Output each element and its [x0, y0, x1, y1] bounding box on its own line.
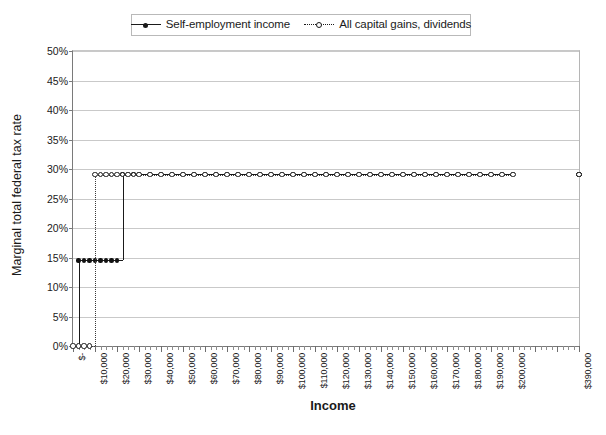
- x-tick-mark: [134, 346, 135, 350]
- data-point-marker: [312, 172, 317, 177]
- data-point-marker: [169, 172, 174, 177]
- x-tick-mark: [238, 346, 239, 350]
- x-tick-mark: [458, 346, 459, 350]
- data-point-marker: [70, 343, 75, 348]
- x-tick-mark: [183, 346, 184, 352]
- x-tick-mark: [172, 346, 173, 350]
- data-point-marker: [367, 172, 372, 177]
- x-tick-mark: [409, 346, 410, 350]
- x-tick-mark: [139, 346, 140, 352]
- x-tick-label: $170,000: [451, 353, 461, 389]
- x-tick-label: $160,000: [429, 353, 439, 389]
- data-point-marker: [455, 172, 460, 177]
- legend-label-capital-gains: All capital gains, dividends: [339, 19, 471, 31]
- x-tick-mark: [293, 346, 294, 352]
- x-tick-mark: [381, 346, 382, 352]
- series-all-capital-gains-dividends: [73, 51, 579, 346]
- x-tick-mark: [194, 346, 195, 350]
- data-point-marker: [279, 172, 284, 177]
- data-point-marker: [202, 172, 207, 177]
- x-tick-mark: [161, 346, 162, 352]
- x-tick-label: $70,000: [231, 353, 241, 384]
- data-point-marker: [136, 172, 141, 177]
- data-point-marker: [334, 172, 339, 177]
- data-point-marker: [510, 172, 515, 177]
- x-tick-mark: [414, 346, 415, 350]
- x-tick-label: $150,000: [407, 353, 417, 389]
- x-tick-mark: [442, 346, 443, 350]
- y-tick-label: 45%: [28, 75, 68, 87]
- data-point-marker: [109, 172, 114, 177]
- data-point-marker: [301, 172, 306, 177]
- x-tick-mark: [541, 346, 542, 350]
- x-tick-mark: [205, 346, 206, 352]
- x-tick-mark: [464, 346, 465, 350]
- x-tick-mark: [469, 346, 470, 352]
- x-tick-mark: [403, 346, 404, 352]
- data-point-marker: [411, 172, 416, 177]
- data-point-marker: [180, 172, 185, 177]
- x-tick-mark: [436, 346, 437, 350]
- x-tick-mark: [552, 346, 553, 350]
- x-tick-mark: [502, 346, 503, 350]
- data-point-marker: [488, 172, 493, 177]
- x-tick-label: $130,000: [363, 353, 373, 389]
- x-axis-title: Income: [0, 398, 606, 413]
- data-point-marker: [98, 172, 103, 177]
- x-tick-label: $100,000: [297, 353, 307, 389]
- x-tick-label: $80,000: [253, 353, 263, 384]
- x-tick-label: $20,000: [121, 353, 131, 384]
- x-tick-mark: [128, 346, 129, 350]
- x-tick-mark: [249, 346, 250, 352]
- x-tick-mark: [233, 346, 234, 350]
- y-tick-label: 25%: [28, 193, 68, 205]
- y-axis-title: Marginal total federal tax rate: [4, 0, 30, 390]
- legend-entry-self-employment: Self-employment income: [131, 19, 290, 31]
- x-tick-label: $140,000: [385, 353, 395, 389]
- x-tick-mark: [431, 346, 432, 350]
- x-tick-label: $40,000: [165, 353, 175, 384]
- data-point-marker: [87, 343, 92, 348]
- x-tick-mark: [420, 346, 421, 350]
- y-tick-label: 50%: [28, 45, 68, 57]
- x-tick-label: $10,000: [99, 353, 109, 384]
- x-tick-mark: [332, 346, 333, 350]
- x-tick-mark: [282, 346, 283, 350]
- x-tick-mark: [255, 346, 256, 350]
- data-point-marker: [499, 172, 504, 177]
- data-point-marker: [224, 172, 229, 177]
- data-point-marker: [257, 172, 262, 177]
- x-tick-label: $390,000: [583, 353, 593, 389]
- y-tick-label: 10%: [28, 281, 68, 293]
- x-tick-mark: [106, 346, 107, 350]
- x-tick-mark: [524, 346, 525, 350]
- y-tick-label: 5%: [28, 311, 68, 323]
- x-tick-label: $90,000: [275, 353, 285, 384]
- x-tick-mark: [112, 346, 113, 350]
- y-tick-label: 30%: [28, 163, 68, 175]
- x-tick-label: $-: [77, 353, 87, 361]
- y-tick-label: 20%: [28, 222, 68, 234]
- data-point-marker: [76, 343, 81, 348]
- x-tick-mark: [563, 346, 564, 350]
- x-tick-mark: [266, 346, 267, 350]
- y-tick-label: 15%: [28, 252, 68, 264]
- legend-key-dotted-line-open-marker: [304, 20, 334, 30]
- legend-label-self-employment: Self-employment income: [166, 19, 290, 31]
- x-tick-mark: [321, 346, 322, 350]
- y-tick-label: 40%: [28, 104, 68, 116]
- x-tick-mark: [310, 346, 311, 350]
- data-point-marker: [477, 172, 482, 177]
- x-tick-label: $190,000: [495, 353, 505, 389]
- x-tick-mark: [491, 346, 492, 352]
- x-tick-mark: [244, 346, 245, 350]
- x-tick-mark: [227, 346, 228, 352]
- x-tick-mark: [211, 346, 212, 350]
- x-tick-mark: [359, 346, 360, 352]
- x-tick-label: $110,000: [319, 353, 329, 388]
- x-tick-mark: [343, 346, 344, 350]
- x-tick-mark: [535, 346, 536, 352]
- data-point-marker: [213, 172, 218, 177]
- x-tick-mark: [216, 346, 217, 350]
- data-point-marker: [235, 172, 240, 177]
